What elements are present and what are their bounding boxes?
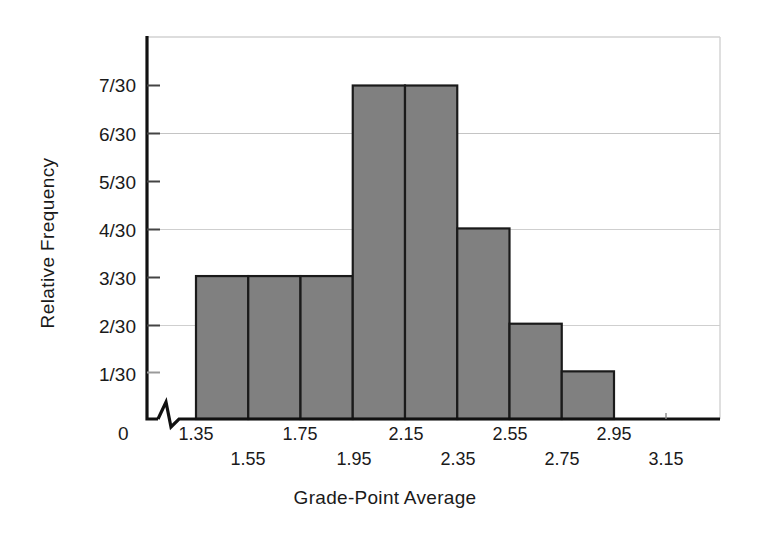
histogram-bars: [196, 86, 614, 420]
x-tick-label-3-15: 3.15: [636, 450, 696, 468]
x-tick-label-2-15: 2.15: [376, 425, 436, 443]
histogram-bar: [510, 324, 562, 419]
histogram-bar: [562, 371, 614, 419]
x-tick-label-2-55: 2.55: [480, 425, 540, 443]
x-tick-label-1-55: 1.55: [218, 450, 278, 468]
histogram-bar: [248, 276, 300, 419]
x-tick-label-1-95: 1.95: [324, 450, 384, 468]
histogram-bar: [196, 276, 248, 419]
histogram-figure: Relative Frequency 7/30 6/30 5/30 4/30 3…: [0, 0, 757, 536]
histogram-bar: [405, 86, 457, 420]
x-tick-label-1-75: 1.75: [270, 425, 330, 443]
x-tick-label-2-75: 2.75: [532, 450, 592, 468]
x-tick-label-2-95: 2.95: [584, 425, 644, 443]
x-tick-label-1-35: 1.35: [166, 425, 226, 443]
x-tick-label-2-35: 2.35: [428, 450, 488, 468]
histogram-bar: [353, 86, 405, 420]
x-axis-title: Grade-Point Average: [150, 487, 620, 509]
y-axis-ticks: [147, 86, 160, 373]
histogram-bar: [457, 228, 509, 419]
histogram-bar: [301, 276, 353, 419]
